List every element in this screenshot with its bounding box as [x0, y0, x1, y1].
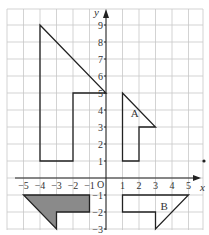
x-tick-label: −5 — [18, 180, 29, 191]
marker-dot — [202, 159, 205, 162]
y-axis-label: y — [93, 6, 99, 18]
y-tick-label: 8 — [98, 37, 103, 48]
y-tick-label: 4 — [98, 105, 103, 116]
x-tick-label: 2 — [137, 180, 142, 191]
y-axis-arrow-icon — [103, 9, 109, 18]
x-tick-label: −3 — [51, 180, 62, 191]
x-tick-label: 3 — [153, 180, 158, 191]
y-tick-label: 2 — [98, 139, 103, 150]
y-tick-label: 6 — [98, 71, 103, 82]
shape-A-label: A — [131, 107, 139, 119]
shape-B-label: B — [160, 200, 167, 212]
x-tick-label: 5 — [186, 180, 191, 191]
x-tick-label: 1 — [120, 180, 125, 191]
y-tick-label: 9 — [98, 20, 103, 31]
y-tick-label: −3 — [92, 224, 103, 235]
coordinate-grid: −5−4−3−2−112345−1−2−3123456789xyOAB — [0, 0, 209, 234]
y-tick-label: 3 — [98, 122, 103, 133]
y-tick-label: −1 — [92, 190, 103, 201]
x-tick-label: −4 — [35, 180, 46, 191]
y-tick-label: −2 — [92, 207, 103, 218]
x-tick-label: −2 — [68, 180, 79, 191]
origin-label: O — [97, 179, 104, 190]
x-tick-label: 4 — [170, 180, 175, 191]
x-axis-label: x — [199, 181, 205, 193]
y-tick-label: 1 — [98, 156, 103, 167]
y-tick-label: 7 — [98, 54, 103, 65]
